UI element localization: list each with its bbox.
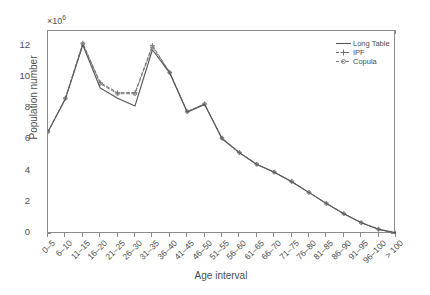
y-tick-label: 4	[0, 165, 30, 175]
legend-label-copula: Copula	[353, 57, 377, 67]
y-tick-label: 10	[0, 71, 30, 81]
y-tick-label: 2	[0, 196, 30, 206]
y-tick-label: 0	[0, 227, 30, 237]
y-axis-exponent-label: ×106	[47, 14, 66, 26]
figure: ×106 Population number 024681012 0–56–10…	[0, 0, 430, 295]
legend: Long Table IPF Copula	[336, 39, 390, 66]
y-axis-exponent-power: 6	[62, 14, 66, 21]
legend-item-ipf[interactable]: IPF	[336, 48, 390, 57]
y-tick-label: 12	[0, 40, 30, 50]
y-axis-exponent-base: ×10	[47, 16, 62, 26]
legend-swatch-copula	[336, 57, 351, 66]
series-long-table	[48, 45, 396, 233]
x-axis-title: Age interval	[47, 270, 395, 281]
y-tick-label: 6	[0, 133, 30, 143]
y-tick-label: 8	[0, 102, 30, 112]
legend-item-copula[interactable]: Copula	[336, 57, 390, 66]
legend-swatch-ipf	[336, 48, 351, 57]
legend-swatch-long-table	[336, 39, 351, 48]
legend-item-long-table[interactable]: Long Table	[336, 39, 390, 48]
